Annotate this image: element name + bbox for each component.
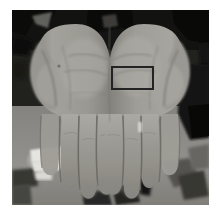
photograph [12,10,209,205]
photograph-canvas [12,10,209,205]
figure-page: Grayscale photograph of two open human h… [0,0,222,219]
